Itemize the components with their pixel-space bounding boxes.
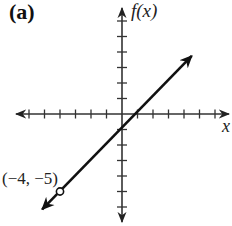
y-axis (117, 8, 127, 222)
open-circle-point (56, 188, 63, 195)
panel-label: (a) (9, 1, 35, 23)
y-axis-label: f(x) (131, 1, 157, 20)
point-label: (−4, −5) (2, 170, 58, 187)
x-axis-label: x (222, 117, 230, 135)
function-line (42, 56, 192, 209)
coordinate-plane (0, 0, 232, 226)
graph-figure: (a) f(x) x (−4, −5) (0, 0, 232, 226)
